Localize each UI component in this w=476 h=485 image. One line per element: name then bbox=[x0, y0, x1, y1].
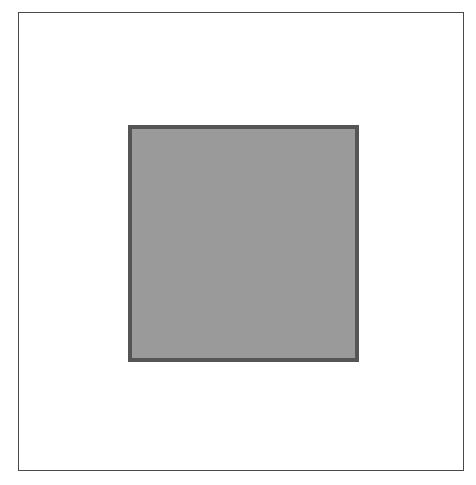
gray-square bbox=[128, 125, 359, 362]
